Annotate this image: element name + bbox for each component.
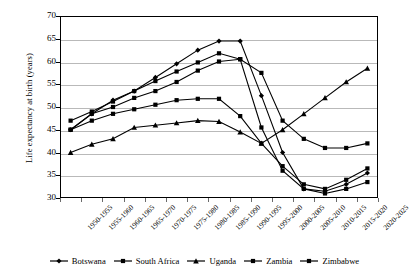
data-point-marker <box>153 89 157 93</box>
legend-item-zambia[interactable]: Zambia <box>243 256 292 266</box>
x-axis-tick-mark <box>124 198 125 202</box>
y-axis-tick-label: 65 <box>30 34 56 43</box>
x-axis-tick-mark <box>314 198 315 202</box>
data-point-marker <box>217 97 221 101</box>
legend-item-south-africa[interactable]: South Africa <box>113 256 180 266</box>
series-zambia <box>69 97 370 191</box>
x-axis-tick-mark <box>251 198 252 202</box>
x-axis-tick-mark <box>293 198 294 202</box>
data-point-marker <box>217 51 221 55</box>
data-point-marker <box>259 125 263 129</box>
x-axis-tick-mark <box>102 198 103 202</box>
series-line <box>71 99 368 189</box>
legend-item-zimbabwe[interactable]: Zimbabwe <box>299 256 359 266</box>
y-axis-tick-label: 60 <box>30 57 56 66</box>
data-point-marker <box>343 79 349 84</box>
chart-legend: BotswanaSouth AfricaUgandaZambiaZimbabwe <box>0 252 408 270</box>
x-axis-tick-labels: 1950-19551955-19601960-19651965-19701970… <box>0 203 408 249</box>
data-point-marker <box>196 60 200 64</box>
data-point-marker <box>344 182 349 187</box>
y-axis-tick-label: 40 <box>30 148 56 157</box>
x-axis-tick-mark <box>187 198 188 202</box>
data-point-marker <box>365 141 369 145</box>
y-axis-tick-label: 55 <box>30 79 56 88</box>
data-point-marker <box>281 119 285 123</box>
legend-marker-triangle-icon <box>186 256 206 266</box>
data-point-marker <box>259 93 264 98</box>
x-axis-tick-mark <box>272 198 273 202</box>
data-point-marker <box>175 80 179 84</box>
y-axis-tick-label: 30 <box>30 193 56 202</box>
legend-label: Zimbabwe <box>321 256 359 266</box>
x-axis-tick-mark <box>336 198 337 202</box>
x-axis-tick-mark <box>60 198 61 202</box>
data-point-marker <box>69 128 73 132</box>
data-point-marker <box>217 59 221 63</box>
data-point-marker <box>238 57 242 61</box>
legend-marker-square-icon <box>243 256 263 266</box>
data-point-marker <box>132 96 136 100</box>
series-line <box>71 59 368 193</box>
x-axis-tick-mark <box>378 198 379 202</box>
data-point-marker <box>281 169 285 173</box>
data-point-marker <box>90 112 94 116</box>
data-point-marker <box>259 71 263 75</box>
data-point-marker <box>196 69 200 73</box>
data-point-marker <box>344 146 348 150</box>
y-axis-tick-label: 70 <box>30 11 56 20</box>
data-point-marker <box>323 187 327 191</box>
y-axis-tick-label: 50 <box>30 102 56 111</box>
data-point-marker <box>344 178 348 182</box>
data-point-marker <box>153 79 157 83</box>
data-point-marker <box>132 89 136 93</box>
data-point-marker <box>69 119 73 123</box>
data-point-marker <box>175 98 179 102</box>
legend-marker-square-icon <box>299 256 319 266</box>
legend-label: South Africa <box>135 256 180 266</box>
data-point-marker <box>111 112 115 116</box>
data-point-marker <box>238 38 243 43</box>
data-point-marker <box>344 187 348 191</box>
data-series-layer <box>60 16 378 198</box>
legend-item-uganda[interactable]: Uganda <box>186 256 236 266</box>
y-axis-tick-label: 45 <box>30 125 56 134</box>
x-axis-tick-mark <box>357 198 358 202</box>
data-point-marker <box>365 170 370 175</box>
data-point-marker <box>90 119 94 123</box>
legend-marker-diamond-icon <box>49 256 69 266</box>
series-zimbabwe <box>69 57 370 195</box>
data-point-marker <box>111 99 115 103</box>
x-axis-tick-mark <box>208 198 209 202</box>
data-point-marker <box>365 180 369 184</box>
legend-label: Uganda <box>208 256 236 266</box>
legend-item-botswana[interactable]: Botswana <box>49 256 106 266</box>
data-point-marker <box>237 129 243 134</box>
data-point-marker <box>216 38 221 43</box>
legend-label: Zambia <box>265 256 292 266</box>
legend-label: Botswana <box>71 256 106 266</box>
data-point-marker <box>302 187 306 191</box>
data-point-marker <box>110 136 116 141</box>
x-axis-tick-mark <box>145 198 146 202</box>
data-point-marker <box>111 105 115 109</box>
x-axis-tick-mark <box>230 198 231 202</box>
legend-marker-square-icon <box>113 256 133 266</box>
data-point-marker <box>302 137 306 141</box>
data-point-marker <box>238 114 242 118</box>
data-point-marker <box>132 107 136 111</box>
data-point-marker <box>280 150 285 155</box>
data-point-marker <box>365 66 371 71</box>
data-point-marker <box>323 191 327 195</box>
data-point-marker <box>153 103 157 107</box>
data-point-marker <box>323 146 327 150</box>
data-point-marker <box>196 97 200 101</box>
data-point-marker <box>175 69 179 73</box>
data-point-marker <box>302 182 306 186</box>
x-axis-tick-mark <box>166 198 167 202</box>
x-axis-tick-mark <box>81 198 82 202</box>
data-point-marker <box>259 141 263 145</box>
data-point-marker <box>365 166 369 170</box>
y-axis-tick-label: 35 <box>30 170 56 179</box>
series-line <box>71 68 368 152</box>
